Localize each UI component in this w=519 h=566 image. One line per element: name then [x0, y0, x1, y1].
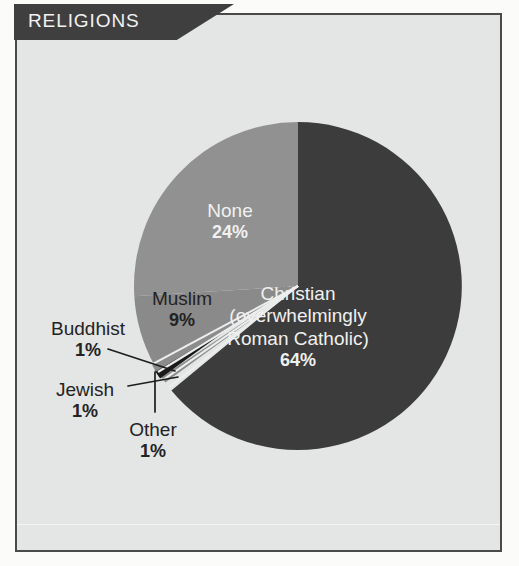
slice-label-buddhist-text: Buddhist: [51, 318, 125, 340]
slice-label-jewish-text: Jewish: [56, 379, 114, 401]
slice-label-none-text: None: [207, 200, 252, 222]
slice-value-muslim: 9%: [152, 310, 212, 331]
slice-label-christian-line2: (overwhelmingly: [227, 305, 369, 327]
leader-line-jewish: [128, 377, 178, 386]
slice-label-christian: Christian (overwhelmingly Roman Catholic…: [227, 283, 369, 371]
slice-value-jewish: 1%: [56, 401, 114, 422]
slice-label-other-text: Other: [129, 419, 177, 441]
slice-value-christian: 64%: [227, 350, 369, 371]
slice-value-buddhist: 1%: [51, 340, 125, 361]
religions-pie-chart: Christian (overwhelmingly Roman Catholic…: [0, 0, 519, 566]
slice-value-none: 24%: [207, 222, 252, 243]
slice-label-muslim-text: Muslim: [152, 288, 212, 310]
slice-label-none: None 24%: [207, 200, 252, 244]
slice-label-buddhist: Buddhist 1%: [51, 318, 125, 362]
slice-value-other: 1%: [129, 441, 177, 462]
slice-label-jewish: Jewish 1%: [56, 379, 114, 423]
slice-label-other: Other 1%: [129, 419, 177, 463]
slice-label-christian-line1: Christian: [227, 283, 369, 305]
slice-label-muslim: Muslim 9%: [152, 288, 212, 332]
page-root: RELIGIONS: [0, 0, 519, 566]
slice-label-christian-line3: Roman Catholic): [227, 328, 369, 350]
